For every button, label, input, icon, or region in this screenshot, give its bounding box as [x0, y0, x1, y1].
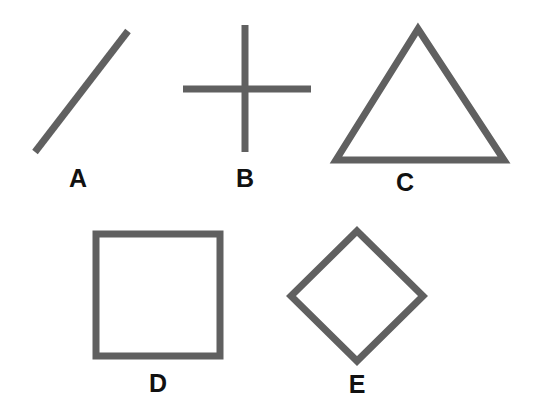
shape-label-a: A — [69, 166, 87, 191]
shapes-svg — [0, 0, 534, 418]
shape-label-e: E — [349, 372, 366, 397]
shape-d-square — [96, 234, 220, 356]
shape-label-c: C — [396, 170, 414, 195]
shape-b-cross — [183, 25, 311, 152]
shape-label-b: B — [236, 166, 254, 191]
shape-a-line — [35, 31, 128, 152]
shape-label-d: D — [149, 371, 167, 396]
shape-c-triangle — [336, 29, 504, 160]
shape-e-diamond — [291, 231, 423, 361]
figure-canvas: A B C D E — [0, 0, 534, 418]
